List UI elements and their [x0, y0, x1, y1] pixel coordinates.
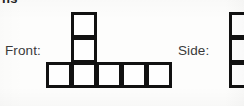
side-cell: [229, 12, 244, 38]
side-view-diagram: [0, 0, 244, 106]
worksheet-fragment: ns Front: Side:: [0, 0, 244, 106]
side-cell: [229, 37, 244, 63]
side-cell: [229, 62, 244, 88]
